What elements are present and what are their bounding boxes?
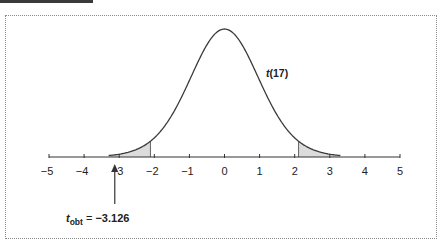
x-tick-label: 3 (327, 165, 333, 177)
t-distribution-chart: −5−4−3−2−1012345 t(17) tobt = −3.126 (0, 0, 444, 244)
t-distribution-curve (109, 29, 341, 156)
x-tick-label: 2 (292, 165, 298, 177)
x-tick-label: 4 (362, 165, 368, 177)
t-obtained-arrow (111, 164, 118, 204)
x-tick-label: −4 (76, 165, 89, 177)
equals-sign: = (83, 212, 96, 224)
t-obtained-value: −3.126 (95, 212, 129, 224)
t-subscript: obt (70, 217, 83, 227)
x-tick-label: 5 (397, 165, 403, 177)
distribution-label: t(17) (266, 67, 288, 79)
t-obtained-label: tobt = −3.126 (66, 212, 129, 227)
x-tick-label: −2 (146, 165, 159, 177)
x-tick-label: −1 (181, 165, 194, 177)
distribution-df: (17) (270, 67, 289, 79)
x-tick-label: 0 (221, 165, 227, 177)
x-tick-label: 1 (257, 165, 263, 177)
x-tick-label: −5 (41, 165, 54, 177)
